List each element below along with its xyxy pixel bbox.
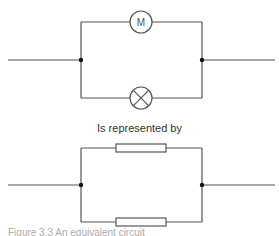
figure-caption: Figure 3.3 An equivalent circuit	[8, 227, 145, 236]
resistor-icon-bottom	[116, 218, 166, 226]
top-parallel-circuit: M	[8, 11, 275, 109]
junction-dot-right	[200, 58, 204, 62]
circuit-diagram: M	[0, 0, 279, 236]
bottom-parallel-circuit	[8, 144, 275, 226]
transition-label: Is represented by	[0, 122, 279, 134]
resistor-icon-top	[116, 144, 166, 152]
motor-icon: M	[130, 11, 152, 33]
junction-dot-left	[79, 58, 83, 62]
svg-text:M: M	[137, 17, 145, 28]
lamp-icon	[130, 87, 152, 109]
